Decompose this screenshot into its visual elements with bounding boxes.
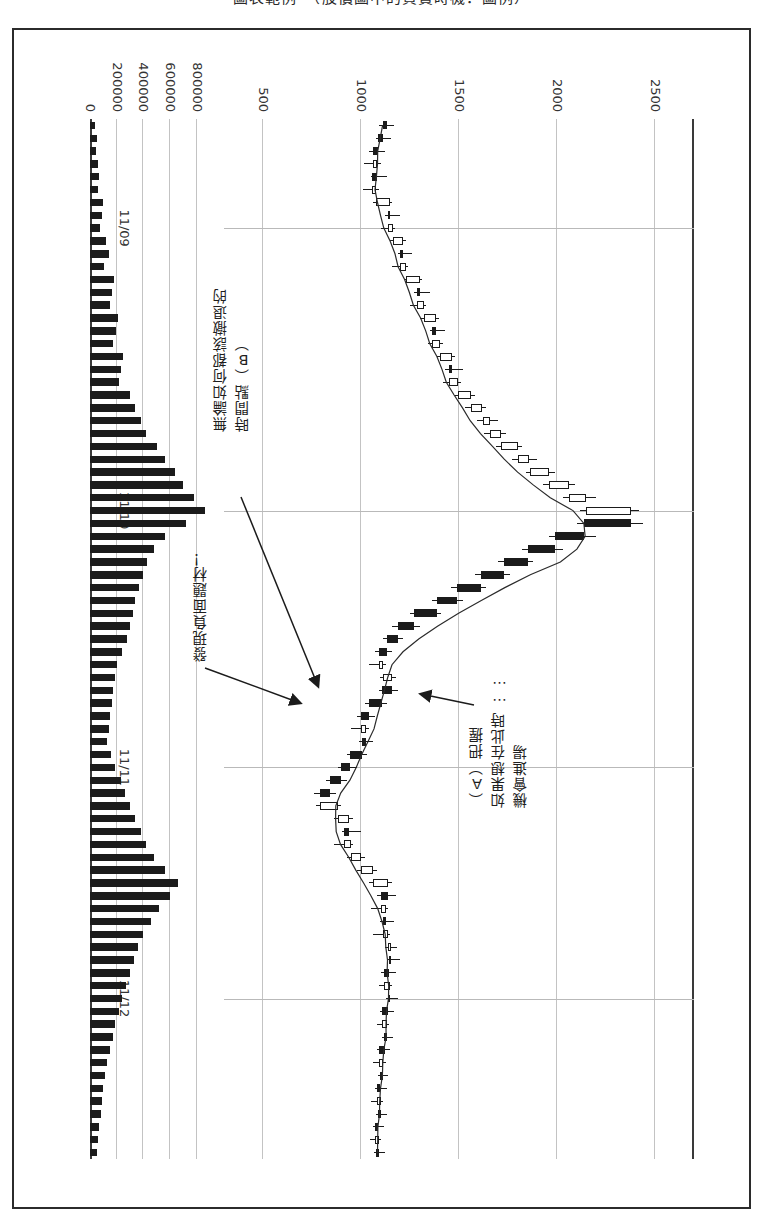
volume-bar: [90, 558, 147, 565]
volume-bar: [90, 725, 109, 732]
volume-bar: [90, 956, 134, 963]
volume-bar: [90, 673, 115, 680]
volume-bar: [90, 506, 205, 513]
volume-bar: [90, 327, 116, 334]
volume-tick-label: 600000: [162, 62, 177, 112]
volume-bar: [90, 160, 98, 167]
volume-tick-label: 800000: [189, 62, 204, 112]
volume-bar: [90, 198, 103, 205]
volume-bar: [90, 763, 115, 770]
volume-bar: [90, 301, 110, 308]
volume-bar: [90, 1084, 103, 1091]
volume-bar: [90, 712, 110, 719]
volume-bar: [90, 1033, 113, 1040]
volume-bar: [90, 609, 133, 616]
volume-bar: [90, 1058, 107, 1065]
volume-bar: [90, 494, 194, 501]
volume-bar: [90, 481, 183, 488]
volume-bar: [90, 339, 113, 346]
volume-bar: [90, 815, 135, 822]
volume-bar: [90, 827, 141, 834]
volume-bar: [90, 917, 151, 924]
volume-bar: [90, 532, 165, 539]
volume-bar: [90, 635, 127, 642]
volume-bar: [90, 121, 95, 128]
price-tick-label: 1500: [451, 78, 466, 111]
volume-bar: [90, 648, 122, 655]
volume-bar: [90, 802, 130, 809]
rotated-chart-stage: 2500200015001000500 11/0911/1011/1111/12…: [34, 41, 734, 1201]
volume-bar: [90, 391, 130, 398]
volume-bar: [90, 981, 126, 988]
volume-bar: [90, 185, 98, 192]
volume-bar: [90, 660, 117, 667]
volume-bar: [90, 1046, 110, 1053]
volume-bar: [90, 519, 186, 526]
volume-bar: [90, 365, 121, 372]
chart-stage-wrap: 2500200015001000500 11/0911/1011/1111/12…: [14, 30, 753, 1211]
volume-bar: [90, 442, 157, 449]
volume-bar: [90, 417, 141, 424]
volume-bar: [90, 250, 109, 257]
volume-bar: [90, 840, 146, 847]
price-tick-label: 2500: [647, 78, 662, 111]
volume-gridline: [169, 119, 170, 1159]
volume-bar: [90, 314, 118, 321]
volume-bar: [90, 275, 114, 282]
volume-bar: [90, 1123, 99, 1130]
volume-bar: [90, 262, 104, 269]
volume-bar: [90, 750, 111, 757]
volume-bar: [90, 147, 96, 154]
volume-bar: [90, 1110, 101, 1117]
volume-bar: [90, 904, 159, 911]
volume-bar: [90, 866, 165, 873]
price-tick-label: 2000: [549, 78, 564, 111]
chart-frame: 2500200015001000500 11/0911/1011/1111/12…: [12, 28, 751, 1209]
price-tick-label: 1000: [353, 78, 368, 111]
volume-bar: [90, 776, 121, 783]
annotation-negative-news: 發現負面題材！: [190, 550, 212, 662]
volume-tick-label: 0: [82, 103, 97, 111]
annotation-exit-point-b: 無論如何都該撤退的 時間點（B）: [210, 288, 255, 432]
volume-bar: [90, 288, 112, 295]
volume-bar: [90, 224, 100, 231]
volume-bar: [90, 737, 107, 744]
volume-bar: [90, 1136, 98, 1143]
volume-bar: [90, 596, 135, 603]
volume-bar: [90, 1097, 102, 1104]
volume-bar: [90, 1007, 119, 1014]
volume-bar: [90, 892, 170, 899]
volume-bar: [90, 545, 154, 552]
volume-bar: [90, 211, 102, 218]
volume-gridline: [142, 119, 143, 1159]
volume-bar: [90, 789, 125, 796]
volume-bar: [90, 1148, 97, 1155]
volume-bar: [90, 468, 175, 475]
volume-bar: [90, 134, 97, 141]
volume-bar: [90, 583, 139, 590]
price-panel: 2500200015001000500 11/0911/1011/1111/12: [224, 119, 694, 1159]
volume-bar: [90, 455, 165, 462]
volume-bar: [90, 699, 112, 706]
volume-bar: [90, 853, 154, 860]
volume-bar: [90, 1020, 115, 1027]
volume-bar: [90, 622, 130, 629]
volume-bar: [90, 994, 122, 1001]
volume-bar: [90, 686, 113, 693]
volume-tick-label: 200000: [109, 62, 124, 112]
volume-bar: [90, 879, 178, 886]
volume-bar: [90, 429, 146, 436]
volume-bar: [90, 1071, 105, 1078]
volume-bar: [90, 352, 123, 359]
price-tick-label: 500: [255, 87, 270, 112]
moving-average-line: [224, 119, 694, 1159]
annotation-entry-point-a: （A）把握 如果想在此時…… 機會進場: [466, 678, 533, 808]
volume-bar: [90, 943, 138, 950]
volume-bar: [90, 571, 143, 578]
volume-bar: [90, 969, 130, 976]
volume-bar: [90, 173, 99, 180]
volume-tick-label: 400000: [135, 62, 150, 112]
volume-bar: [90, 237, 106, 244]
volume-bar: [90, 378, 119, 385]
volume-bar: [90, 404, 135, 411]
